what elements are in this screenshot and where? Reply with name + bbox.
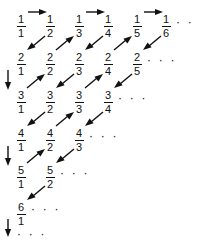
numerator: 2 xyxy=(70,52,88,63)
arrow-down-left-2-3-to-3-2 xyxy=(56,74,74,88)
row-1-ellipsis: · · · xyxy=(176,16,200,28)
numerator: 3 xyxy=(12,90,30,101)
arrow-up-right-2-4-to-1-5 xyxy=(114,36,132,50)
arrow-up-right-5-1-to-4-2 xyxy=(27,149,45,163)
row-4-ellipsis: · · · xyxy=(89,130,119,142)
arrow-down-left-3-2-to-4-1 xyxy=(27,112,45,126)
arrow-down-left-1-2-to-2-1 xyxy=(27,36,45,50)
row-6-ellipsis: · · · xyxy=(31,203,61,215)
fraction-6-1: 6 1 xyxy=(12,202,30,227)
row-2-ellipsis: · · · xyxy=(147,54,177,66)
arrow-right-1-1-to-1-2 xyxy=(28,8,47,16)
numerator: 2 xyxy=(41,52,59,63)
numerator: 3 xyxy=(41,90,59,101)
numerator: 5 xyxy=(12,165,30,176)
denominator: 1 xyxy=(12,216,30,227)
arrow-up-right-2-2-to-1-3 xyxy=(56,36,74,50)
numerator: 5 xyxy=(41,165,59,176)
numerator: 3 xyxy=(99,90,117,101)
arrow-down-2-1-to-3-1 xyxy=(4,70,12,90)
numerator: 2 xyxy=(128,52,146,63)
arrow-down-left-3-4-to-4-3 xyxy=(85,112,103,126)
arrow-down-left-1-6-to-2-5 xyxy=(143,36,161,50)
arrow-up-right-4-2-to-3-3 xyxy=(56,112,74,126)
bottom-ellipsis: · · · xyxy=(17,228,47,240)
arrow-up-right-3-3-to-2-4 xyxy=(85,74,103,88)
row-5-ellipsis: · · · xyxy=(60,167,90,179)
numerator: 4 xyxy=(41,128,59,139)
arrow-down-left-5-2-to-6-1 xyxy=(27,186,45,200)
arrow-down-left-1-4-to-2-3 xyxy=(85,36,103,50)
numerator: 2 xyxy=(12,52,30,63)
numerator: 4 xyxy=(70,128,88,139)
arrow-down-6-1-to-next-row xyxy=(4,219,12,237)
arrow-right-1-5-to-1-6 xyxy=(144,8,163,16)
arrow-down-4-1-to-5-1 xyxy=(4,146,12,166)
numerator: 4 xyxy=(12,128,30,139)
arrow-up-right-3-1-to-2-2 xyxy=(27,74,45,88)
numerator: 6 xyxy=(12,202,30,213)
numerator: 3 xyxy=(70,90,88,101)
numerator: 2 xyxy=(99,52,117,63)
row-3-ellipsis: · · · xyxy=(118,92,148,104)
cantor-enumeration-figure: 1 1 1 2 1 3 1 4 1 5 1 6 · · · 2 1 2 2 2 xyxy=(0,0,200,240)
arrow-down-left-4-3-to-5-2 xyxy=(56,149,74,163)
arrow-down-left-2-5-to-3-4 xyxy=(114,74,132,88)
arrow-right-1-3-to-1-4 xyxy=(86,8,105,16)
